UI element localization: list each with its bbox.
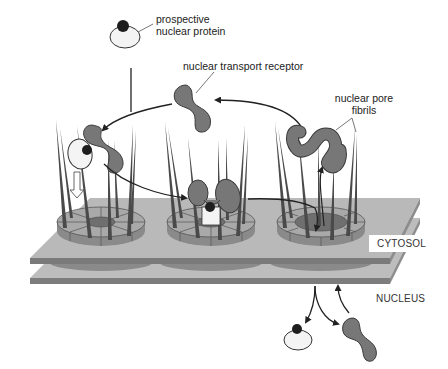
label-line: nuclear protein [156,25,225,37]
arrow-receptor-return [338,286,349,313]
label-cytosol: CYTOSOL [369,235,434,252]
imported-nuclear-protein [284,324,312,350]
released-receptor [293,131,341,167]
docking-hollow-arrow [70,172,84,198]
arrow-receptor-to-docking [103,104,172,130]
nuclear-import-diagram: prospective nuclear protein nuclear tran… [0,0,448,369]
label-prospective-protein: prospective nuclear protein [156,13,225,37]
prospective-nuclear-protein [110,20,153,48]
label-line: prospective [156,13,225,25]
nuclear-transport-receptor [174,72,214,132]
label-nucleus: NUCLEUS [368,290,433,307]
arrow-receptor-recycle [216,100,302,128]
arrow-cargo-release [306,286,315,322]
label-line: nuclear pore [328,92,400,104]
free-receptor-nucleus [343,318,377,361]
label-transport-receptor: nuclear transport receptor [183,60,303,72]
fibrils-leader-lines [336,118,356,132]
label-line: fibrils [328,104,400,116]
label-pore-fibrils: nuclear pore fibrils [328,92,400,116]
arrow-receptor-release [315,286,338,324]
